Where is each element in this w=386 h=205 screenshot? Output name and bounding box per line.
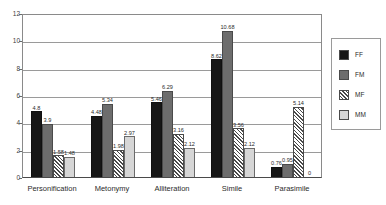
legend-item-ff[interactable]: FF [339,45,380,65]
bar-slot: 2.97 [124,15,135,177]
legend-label: MF [355,92,364,99]
y-axis-tick-label: 10 [2,38,20,45]
bar-value-label: 5.46 [151,97,162,103]
x-axis-tick-label: Personification [27,184,76,193]
bar-value-label: 6.29 [162,85,173,91]
bar-mf[interactable]: 3.56 [233,128,244,177]
bar-ff[interactable]: 0.76 [271,167,282,177]
bar-value-label: 2.97 [124,131,135,137]
bar-fm[interactable]: 10.68 [222,31,233,177]
bar-slot: 5.34 [102,15,113,177]
bar-mf[interactable]: 3.16 [173,134,184,177]
bar-slot: 0.95 [282,15,293,177]
legend-item-mm[interactable]: MM [339,105,380,125]
bar-value-label: 5.34 [102,98,113,104]
bar-mm[interactable]: 2.12 [244,148,255,177]
chart-legend: FFFMMFMM [331,38,381,130]
bar-slot: 0.76 [271,15,282,177]
bar-value-label: 3.56 [233,123,244,129]
bar-value-label: 3.16 [173,128,184,134]
y-axis-tick-label: 4 [2,120,20,127]
bar-value-label: 0.95 [282,158,293,164]
bar-group: 4.485.341.982.97 [91,15,135,177]
bar-group: 5.466.293.162.12 [151,15,195,177]
bar-slot: 3.9 [42,15,53,177]
bar-mf[interactable]: 1.58 [53,155,64,177]
plot-area: 4.83.91.581.484.485.341.982.975.466.293.… [22,14,322,178]
bar-value-label: 3.9 [44,118,52,124]
legend-swatch-icon [339,50,349,60]
x-axis-tick-label: Alliteration [154,184,189,193]
y-axis-tick-label: 12 [2,11,20,18]
bar-value-label: 5.14 [293,101,304,107]
legend-item-mf[interactable]: MF [339,85,380,105]
x-axis-tick-label: Simile [222,184,242,193]
y-axis-tick-label: 8 [2,65,20,72]
bar-value-label: 0 [308,171,311,177]
bar-fm[interactable]: 6.29 [162,91,173,177]
y-axis-tick-mark [19,178,22,179]
y-axis-tick-label: 0 [2,175,20,182]
bar-chart: 024681012 4.83.91.581.484.485.341.982.97… [0,0,386,205]
bar-ff[interactable]: 4.8 [31,111,42,177]
bar-mm[interactable]: 2.12 [184,148,195,177]
bar-slot: 2.12 [244,15,255,177]
bar-value-label: 0.76 [271,161,282,167]
bar-slot: 4.48 [91,15,102,177]
bar-fm[interactable]: 3.9 [42,124,53,177]
bar-slot: 3.56 [233,15,244,177]
bar-fm[interactable]: 5.34 [102,104,113,177]
bar-slot: 1.58 [53,15,64,177]
bar-slot: 6.29 [162,15,173,177]
bars-layer: 4.83.91.581.484.485.341.982.975.466.293.… [23,15,321,177]
bar-value-label: 2.12 [244,142,255,148]
bar-slot: 10.68 [222,15,233,177]
legend-label: FM [355,72,364,79]
bar-value-label: 2.12 [184,142,195,148]
legend-label: FF [355,52,363,59]
bar-fm[interactable]: 0.95 [282,164,293,177]
bar-ff[interactable]: 5.46 [151,102,162,177]
x-axis-tick-label: Parasimile [274,184,309,193]
legend-label: MM [355,112,366,119]
bar-value-label: 1.98 [113,144,124,150]
legend-swatch-icon [339,70,349,80]
legend-item-fm[interactable]: FM [339,65,380,85]
bar-ff[interactable]: 4.48 [91,116,102,177]
bar-ff[interactable]: 8.62 [211,59,222,177]
bar-group: 8.6210.683.562.12 [211,15,255,177]
bar-slot: 5.14 [293,15,304,177]
bar-group: 0.760.955.140 [271,15,315,177]
bar-value-label: 4.8 [33,106,41,112]
bar-slot: 1.48 [64,15,75,177]
bar-mf[interactable]: 5.14 [293,107,304,177]
bar-slot: 1.98 [113,15,124,177]
bar-slot: 5.46 [151,15,162,177]
x-axis: PersonificationMetonymyAlliterationSimil… [22,184,322,200]
bar-mf[interactable]: 1.98 [113,150,124,177]
bar-mm[interactable]: 2.97 [124,136,135,177]
x-axis-tick-label: Metonymy [95,184,130,193]
bar-slot: 4.8 [31,15,42,177]
bar-value-label: 1.48 [64,151,75,157]
legend-swatch-icon [339,90,349,100]
bar-value-label: 4.48 [91,110,102,116]
bar-mm[interactable]: 1.48 [64,157,75,177]
y-axis-tick-label: 2 [2,147,20,154]
bar-slot: 2.12 [184,15,195,177]
cut-off-caption-strip [0,0,386,6]
y-axis-tick-label: 6 [2,93,20,100]
bar-value-label: 8.62 [211,54,222,60]
bar-value-label: 1.58 [53,150,64,156]
bar-slot: 0 [304,15,315,177]
bar-slot: 8.62 [211,15,222,177]
bar-slot: 3.16 [173,15,184,177]
bar-group: 4.83.91.581.48 [31,15,75,177]
legend-swatch-icon [339,110,349,120]
